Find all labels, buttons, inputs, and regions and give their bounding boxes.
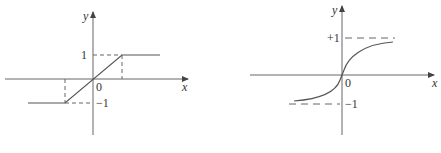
- left-lower-tick-label: −1: [96, 96, 109, 110]
- figure-canvas: y x 0 1 −1 y x 0 +1 −1: [0, 0, 441, 153]
- right-upper-tick-label: +1: [327, 31, 340, 45]
- right-x-label: x: [431, 76, 438, 90]
- right-y-label: y: [331, 3, 338, 17]
- left-x-label: x: [181, 80, 188, 94]
- right-plot: y x 0 +1 −1: [250, 3, 438, 135]
- left-plot: y x 0 1 −1: [5, 9, 188, 135]
- right-curve: [294, 42, 393, 101]
- left-origin-label: 0: [96, 80, 102, 94]
- left-upper-tick-label: 1: [81, 48, 87, 62]
- right-origin-label: 0: [345, 76, 351, 90]
- right-lower-tick-label: −1: [345, 97, 358, 111]
- left-y-label: y: [82, 9, 89, 23]
